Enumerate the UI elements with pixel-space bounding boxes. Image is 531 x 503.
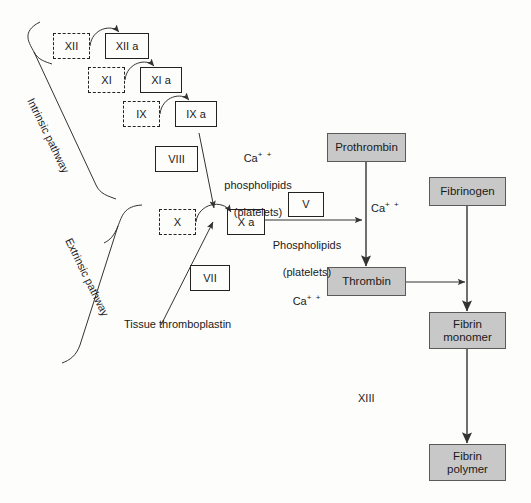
cofactor-note-ix-to-x-line2: phospholipids [200,179,316,192]
cofactor-note-xa-line3: Ca+ + [251,293,363,308]
factor-box-x[interactable]: X [159,209,196,235]
factor-box-vii[interactable]: VII [190,265,230,291]
cofactor-note-ix-to-x: Ca+ + phospholipids (platelets) [200,137,316,233]
factor-xiii-label: XIII [358,392,375,405]
factor-box-xi-a[interactable]: XI a [140,67,182,93]
product-box-fibrin-polymer[interactable]: Fibrin polymer [429,444,506,481]
coagulation-cascade-diagram: XII XII a XI XI a IX IX a VIII X X a V V… [0,0,531,503]
factor-box-viii[interactable]: VIII [155,146,198,172]
cofactor-note-prothrombin-to-thrombin: Ca+ + [371,200,400,215]
tissue-thromboplastin-label: Tissue thromboplastin [124,318,231,331]
cofactor-note-xa-line2: (platelets) [251,266,363,279]
cofactor-note-ix-to-x-line3: (platelets) [200,206,316,219]
cofactor-note-xa-line1: Phospholipids [251,239,363,252]
cofactor-note-xa-to-thrombin: Phospholipids (platelets) Ca+ + [251,226,363,322]
product-box-fibrinogen[interactable]: Fibrinogen [429,177,506,206]
extrinsic-pathway-brace [62,205,142,363]
factor-box-ix-a[interactable]: IX a [175,101,217,127]
factor-box-ix[interactable]: IX [123,101,160,127]
cofactor-note-ix-to-x-line1: Ca+ + [200,150,316,165]
factor-box-xii[interactable]: XII [53,33,90,59]
product-box-prothrombin[interactable]: Prothrombin [327,133,406,162]
product-box-fibrin-monomer[interactable]: Fibrin monomer [429,312,506,349]
factor-box-xii-a[interactable]: XII a [105,33,149,59]
factor-box-xi[interactable]: XI [88,67,125,93]
